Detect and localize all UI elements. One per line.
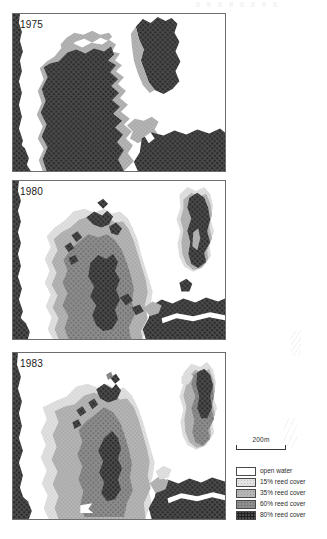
map-panel-1983: 1983 <box>12 352 226 520</box>
scan-artifact-top <box>196 2 282 7</box>
scan-artifact-right-upper <box>291 330 301 356</box>
scale-bar: 200m <box>236 436 286 450</box>
scale-bar-label: 200m <box>236 436 286 444</box>
legend-swatch-15-percent <box>236 478 256 487</box>
legend-swatch-60-percent <box>236 500 256 509</box>
legend-label-60-percent: 60% reed cover <box>260 500 306 508</box>
legend-item-15-percent: 15% reed cover <box>236 477 324 487</box>
reed-cover-figure: 1975 <box>0 0 327 539</box>
scale-bar-line <box>236 444 286 450</box>
panel-year-label-1980: 1980 <box>20 186 43 197</box>
panel-year-label-1975: 1975 <box>20 19 43 30</box>
legend-item-80-percent: 80% reed cover <box>236 510 324 520</box>
map-canvas-1980 <box>13 181 225 339</box>
map-panel-1980: 1980 <box>12 180 226 340</box>
legend-item-open-water: open water <box>236 466 324 476</box>
legend-label-15-percent: 15% reed cover <box>260 478 306 486</box>
legend-item-35-percent: 35% reed cover <box>236 488 324 498</box>
legend-item-60-percent: 60% reed cover <box>236 499 324 509</box>
map-canvas-1975 <box>13 14 225 171</box>
panel-year-label-1983: 1983 <box>20 358 43 369</box>
reed-80-central-lobe <box>41 47 124 171</box>
legend-swatch-80-percent <box>236 511 256 520</box>
legend-swatch-open-water <box>236 467 256 476</box>
map-canvas-1983 <box>13 353 225 519</box>
map-panel-1975: 1975 <box>12 13 226 172</box>
legend-label-80-percent: 80% reed cover <box>260 511 306 519</box>
legend-label-open-water: open water <box>260 467 292 475</box>
legend-label-35-percent: 35% reed cover <box>260 489 306 497</box>
legend-swatch-35-percent <box>236 489 256 498</box>
legend: open water 15% reed cover 35% reed cover… <box>236 466 324 521</box>
